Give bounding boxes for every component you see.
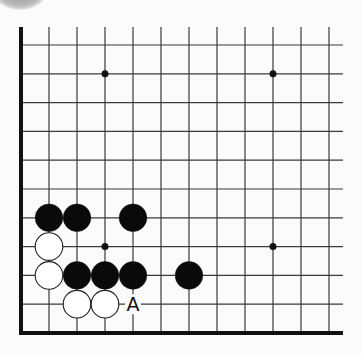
go-board-diagram: A [0, 0, 361, 355]
black-stone [63, 204, 91, 232]
white-stone [35, 233, 63, 261]
white-stone [91, 290, 119, 318]
labels-layer: A [125, 293, 141, 315]
star-point-icon [270, 243, 277, 250]
white-stone [35, 262, 63, 290]
black-stone [119, 262, 147, 290]
star-point-icon [102, 70, 109, 77]
black-stone [63, 262, 91, 290]
black-stone [91, 262, 119, 290]
star-point-icon [102, 243, 109, 250]
board-grid [19, 27, 343, 335]
black-stone [35, 204, 63, 232]
stones-layer [35, 204, 203, 318]
black-stone [119, 204, 147, 232]
white-stone [63, 290, 91, 318]
point-label-a: A [127, 293, 140, 315]
black-stone [175, 262, 203, 290]
star-point-icon [270, 70, 277, 77]
